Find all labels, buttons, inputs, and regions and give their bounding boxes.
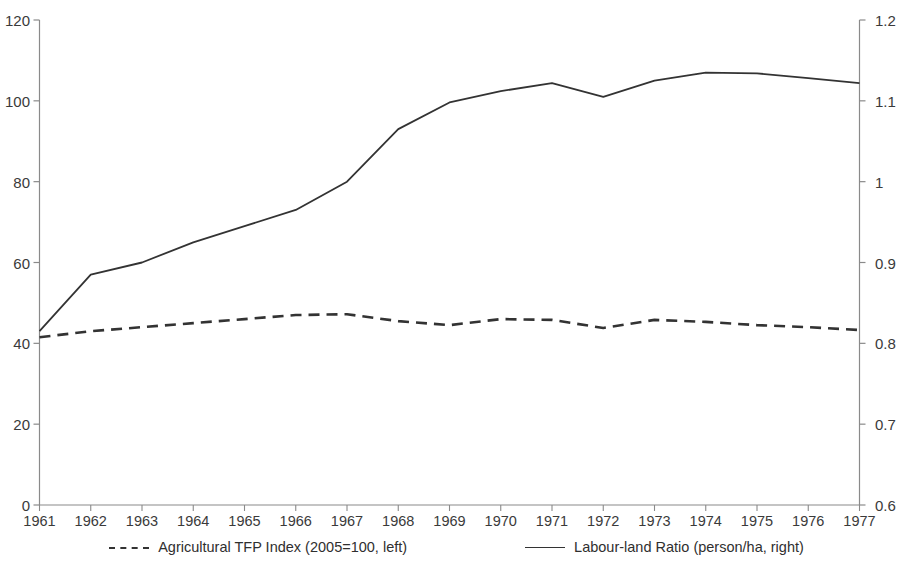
x-axis-tick-label: 1975 (741, 514, 773, 529)
y-axis-left-tick-label: 60 (0, 255, 30, 270)
x-axis-tick-label: 1970 (485, 514, 517, 529)
y-axis-left-tick-label: 80 (0, 174, 30, 189)
y-axis-left-tick-label: 0 (0, 498, 30, 513)
legend-label-labour-land-ratio: Labour-land Ratio (person/ha, right) (574, 540, 804, 555)
solid-line-icon (525, 547, 565, 549)
x-axis-tick-label: 1973 (638, 514, 670, 529)
y-axis-right-tick-label: 1 (875, 174, 883, 189)
x-axis-tick-label: 1961 (23, 514, 55, 529)
x-axis-tick-label: 1964 (177, 514, 209, 529)
legend-item-tfp-index: Agricultural TFP Index (2005=100, left) (109, 540, 407, 555)
y-axis-right-tick-label: 1.1 (875, 93, 896, 108)
x-axis-tick-label: 1972 (587, 514, 619, 529)
y-axis-left-tick-label: 40 (0, 336, 30, 351)
chart-container: 020406080100120 0.60.70.80.911.11.2 1961… (0, 0, 913, 561)
y-axis-left-tick-label: 120 (0, 13, 30, 28)
y-axis-right-tick-label: 0.7 (875, 417, 896, 432)
legend-label-tfp-index: Agricultural TFP Index (2005=100, left) (158, 540, 407, 555)
x-axis-tick-label: 1976 (792, 514, 824, 529)
x-axis-tick-label: 1968 (382, 514, 414, 529)
x-axis-tick-label: 1962 (75, 514, 107, 529)
x-axis-tick-label: 1969 (433, 514, 465, 529)
y-axis-left-tick-label: 100 (0, 93, 30, 108)
y-axis-right-tick-label: 1.2 (875, 13, 896, 28)
y-axis-right-tick-label: 0.6 (875, 498, 896, 513)
series-line-labour-land-ratio (40, 73, 860, 332)
series-line-tfp-index (40, 314, 860, 337)
plot-area (0, 0, 913, 561)
x-axis-tick-label: 1965 (228, 514, 260, 529)
x-axis-tick-label: 1967 (331, 514, 363, 529)
y-axis-right-tick-label: 0.8 (875, 336, 896, 351)
x-axis-tick-label: 1971 (536, 514, 568, 529)
dashed-line-icon (109, 547, 149, 549)
x-axis-tick-label: 1977 (843, 514, 875, 529)
x-axis-tick-label: 1966 (280, 514, 312, 529)
x-axis-tick-label: 1974 (690, 514, 722, 529)
y-axis-left-tick-label: 20 (0, 417, 30, 432)
y-axis-right-tick-label: 0.9 (875, 255, 896, 270)
chart-legend: Agricultural TFP Index (2005=100, left) … (0, 534, 913, 561)
x-axis-tick-label: 1963 (126, 514, 158, 529)
legend-item-labour-land-ratio: Labour-land Ratio (person/ha, right) (525, 540, 804, 555)
